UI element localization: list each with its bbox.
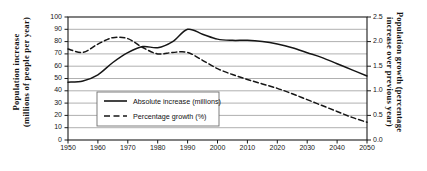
tick-label-right: 2.0 [373, 37, 399, 44]
tick-label-right: 1.0 [373, 86, 399, 93]
tick-label-left: 80 [40, 37, 62, 44]
tick-label-left: 0 [40, 136, 62, 143]
legend-label-percentage-growth: Percentage growth (%) [133, 112, 207, 121]
tick-label-left: 60 [40, 62, 62, 69]
tick-label-left: 30 [40, 99, 62, 106]
tick-label-bottom: 1950 [53, 144, 83, 151]
tick-label-bottom: 1980 [143, 144, 173, 151]
tick-label-left: 100 [40, 13, 62, 20]
tick-label-left: 20 [40, 111, 62, 118]
tick-label-right: 0.5 [373, 111, 399, 118]
tick-label-bottom: 1960 [83, 144, 113, 151]
tick-label-bottom: 2030 [292, 144, 322, 151]
tick-label-bottom: 2050 [352, 144, 382, 151]
tick-label-right: 2.5 [373, 13, 399, 20]
tick-label-left: 50 [40, 74, 62, 81]
tick-label-bottom: 1970 [113, 144, 143, 151]
tick-label-bottom: 2010 [232, 144, 262, 151]
tick-label-left: 70 [40, 49, 62, 56]
tick-label-left: 90 [40, 25, 62, 32]
tick-label-right: 1.5 [373, 62, 399, 69]
population-growth-chart: Population increase (millions of people … [0, 0, 427, 171]
tick-label-left: 10 [40, 123, 62, 130]
tick-label-left: 40 [40, 86, 62, 93]
tick-label-bottom: 1990 [173, 144, 203, 151]
tick-label-bottom: 2000 [203, 144, 233, 151]
tick-label-bottom: 2020 [262, 144, 292, 151]
tick-label-right: 0.0 [373, 136, 399, 143]
tick-label-bottom: 2040 [322, 144, 352, 151]
legend-label-absolute-increase: Absolute increase (millions) [133, 97, 221, 106]
